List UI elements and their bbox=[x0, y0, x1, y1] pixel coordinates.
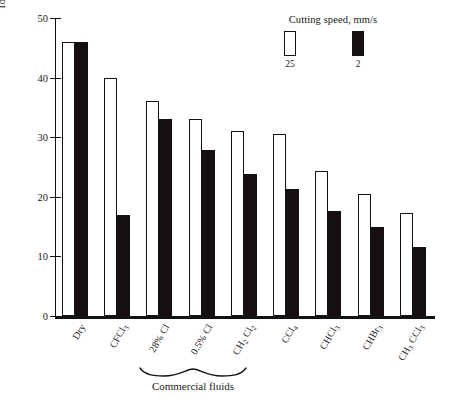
y-tick-mark-inner bbox=[56, 78, 61, 79]
y-tick-mark-inner bbox=[56, 197, 61, 198]
x-axis-baseline bbox=[55, 316, 435, 319]
y-tick-label: 40 bbox=[38, 72, 49, 83]
x-axis-label: CHBr3 bbox=[360, 322, 384, 352]
bar-filled bbox=[159, 119, 172, 316]
bar-filled bbox=[371, 227, 384, 316]
x-axis-label: 0.5% Cl bbox=[188, 322, 214, 356]
commercial-fluids-label: Commercial fluids bbox=[128, 380, 258, 392]
x-axis-label: 28% Cl bbox=[147, 322, 172, 354]
y-tick-mark-inner bbox=[56, 256, 61, 257]
plot-area: 01020304050 bbox=[55, 18, 435, 316]
bar-filled bbox=[117, 215, 130, 316]
y-tick-mark bbox=[50, 256, 55, 257]
bar-open bbox=[189, 119, 202, 316]
y-tick-mark bbox=[50, 18, 55, 19]
bar-filled bbox=[75, 42, 88, 316]
bar-chart-figure: Cutting speed, mm/s 25 2 Tool-chip frict… bbox=[0, 0, 454, 407]
y-tick-mark bbox=[50, 78, 55, 79]
bar-open bbox=[231, 131, 244, 316]
y-axis-title: Tool-chip friction angle β, deg bbox=[0, 0, 7, 10]
y-tick-label: 20 bbox=[38, 191, 49, 202]
x-axis-label: CCl4 bbox=[279, 322, 299, 345]
bar-open bbox=[273, 134, 286, 316]
bar-filled bbox=[202, 150, 215, 316]
y-tick-label: 0 bbox=[43, 311, 48, 322]
y-tick-mark-inner bbox=[56, 18, 61, 19]
x-axis-label: CH3 CCl3 bbox=[396, 322, 426, 363]
bar-open bbox=[400, 213, 413, 316]
x-axis-label: CHCl3 bbox=[318, 322, 341, 351]
commercial-fluids-brace-icon bbox=[139, 367, 247, 379]
bar-filled bbox=[413, 247, 426, 316]
y-tick-label: 50 bbox=[38, 13, 49, 24]
x-axis-label: Dry bbox=[70, 322, 87, 341]
y-tick-label: 30 bbox=[38, 132, 49, 143]
y-tick-label: 10 bbox=[38, 251, 49, 262]
bar-open bbox=[146, 101, 159, 316]
y-axis-line bbox=[55, 18, 56, 316]
y-tick-mark bbox=[50, 197, 55, 198]
x-axis-label: CH2 Cl2 bbox=[230, 322, 256, 357]
y-tick-mark bbox=[50, 137, 55, 138]
y-tick-mark-inner bbox=[56, 316, 61, 317]
bar-open bbox=[104, 78, 117, 316]
bar-open bbox=[62, 42, 75, 316]
bar-filled bbox=[328, 211, 341, 316]
bar-filled bbox=[286, 189, 299, 316]
bar-open bbox=[358, 194, 371, 316]
bar-filled bbox=[244, 174, 257, 316]
y-tick-mark-inner bbox=[56, 137, 61, 138]
bar-open bbox=[315, 171, 328, 316]
x-axis-label: CFCl3 bbox=[107, 322, 129, 350]
y-tick-mark bbox=[50, 316, 55, 317]
